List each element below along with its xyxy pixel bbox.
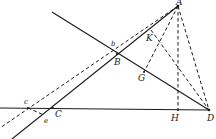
line-through-B-G xyxy=(52,12,209,110)
line-A-D xyxy=(178,6,209,110)
label-c: c xyxy=(24,98,28,106)
point-D xyxy=(208,109,211,112)
point-B xyxy=(116,53,118,55)
label-A: A xyxy=(175,0,183,7)
geometry-diagram: A b K B G c C e H D xyxy=(0,0,216,139)
line-K-D xyxy=(151,30,209,110)
label-H: H xyxy=(170,113,179,123)
label-D: D xyxy=(206,113,214,123)
label-b: b xyxy=(111,40,116,48)
label-G: G xyxy=(138,73,145,83)
line-c-e xyxy=(28,108,44,115)
label-K: K xyxy=(145,33,154,43)
label-e: e xyxy=(44,117,48,125)
point-c xyxy=(27,107,29,109)
point-C xyxy=(52,107,54,109)
line-A-B-C xyxy=(12,6,178,139)
point-H xyxy=(177,109,179,111)
label-B: B xyxy=(113,57,121,67)
label-C: C xyxy=(55,109,62,119)
